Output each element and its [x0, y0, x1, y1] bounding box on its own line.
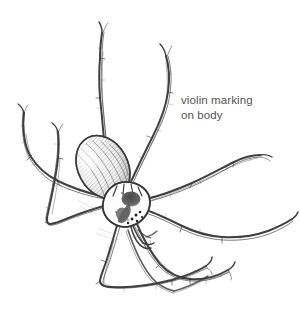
leg-fourth-left: [130, 44, 173, 185]
leg-second-right: [146, 210, 298, 243]
illustration-canvas: violin marking on body: [0, 0, 300, 310]
leg-third-right: [133, 222, 235, 284]
leg-first-right: [146, 155, 272, 202]
cephalothorax: [103, 182, 150, 227]
spider-illustration: [0, 0, 300, 310]
legs-group: [18, 22, 298, 293]
leg-bottom-crossing: [126, 230, 208, 293]
